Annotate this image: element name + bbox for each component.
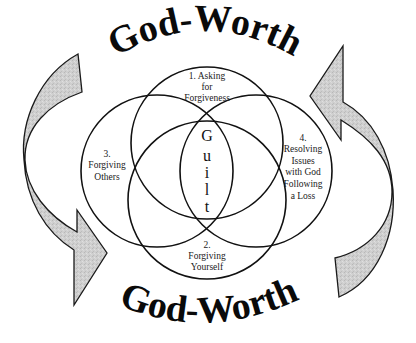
title-top: God-Worth — [101, 0, 310, 63]
svg-text:Following: Following — [283, 179, 322, 189]
label-forgiving-yourself: 2. Forgiving Yourself — [188, 240, 226, 272]
svg-text:Yourself: Yourself — [191, 262, 224, 272]
svg-text:4.: 4. — [299, 133, 306, 143]
svg-text:Forgiving: Forgiving — [188, 251, 226, 261]
svg-text:1. Asking: 1. Asking — [189, 71, 226, 81]
right-arrow — [310, 46, 393, 297]
title-bottom: God-Worth — [115, 268, 303, 331]
svg-text:Forgiving: Forgiving — [88, 160, 126, 170]
label-asking-for-forgiveness: 1. Asking for Forgiveness — [184, 71, 230, 103]
svg-text:Issues: Issues — [291, 156, 315, 166]
svg-text:2.: 2. — [203, 240, 210, 250]
circle-left — [81, 95, 233, 247]
svg-text:l: l — [205, 181, 210, 198]
svg-text:Resolving: Resolving — [284, 144, 323, 154]
god-worth-diagram: God-Worth God-Worth 1. Asking for Forgiv… — [0, 0, 416, 343]
curved-arrow-up-icon — [310, 46, 393, 297]
svg-text:a Loss: a Loss — [291, 191, 316, 201]
label-resolving-issues: 4. Resolving Issues with God Following a… — [283, 133, 322, 201]
svg-text:i: i — [205, 164, 210, 181]
svg-text:t: t — [205, 198, 210, 215]
svg-text:Others: Others — [94, 172, 120, 182]
svg-text:for: for — [201, 82, 213, 92]
svg-text:u: u — [203, 147, 211, 164]
svg-text:with God: with God — [285, 167, 321, 177]
center-guilt-label: G u i l t — [201, 127, 213, 215]
svg-text:G: G — [201, 127, 213, 144]
svg-text:Forgiveness: Forgiveness — [184, 93, 230, 103]
label-forgiving-others: 3. Forgiving Others — [88, 149, 126, 182]
svg-text:3.: 3. — [103, 149, 110, 159]
